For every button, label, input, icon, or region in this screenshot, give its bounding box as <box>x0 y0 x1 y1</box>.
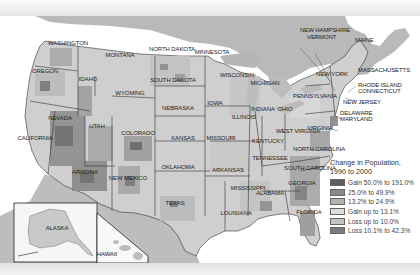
state-label: MISSISSIPPI <box>231 185 266 191</box>
legend: Change in Population, 1990 to 2000 Gain … <box>330 158 420 236</box>
legend-item: Gain up to 13.1% <box>330 207 420 217</box>
state-label: ILLINOIS <box>232 114 256 120</box>
state-label: MONTANA <box>106 52 135 58</box>
legend-swatch <box>330 189 345 196</box>
state-label: NEBRASKA <box>162 105 194 111</box>
state-label: INDIANA <box>251 106 275 112</box>
state-label: TEXAS <box>165 200 184 206</box>
bottom-margin <box>0 263 420 275</box>
legend-title-line2: 1990 to 2000 <box>330 167 420 176</box>
state-label: MINNESOTA <box>195 49 229 55</box>
state-label: NEVADA <box>48 115 72 121</box>
state-label: MICHIGAN <box>250 80 279 86</box>
legend-item: Gain 50.0% to 191.0% <box>330 178 420 188</box>
state-label: VIRGINIA <box>307 125 333 131</box>
state-label: ARIZONA <box>72 169 98 175</box>
state-callout-label: CONNECTICUT <box>358 88 401 94</box>
legend-title-line1: Change in Population, <box>330 158 420 167</box>
legend-item: 25.0% to 49.9% <box>330 188 420 198</box>
state-label: UTAH <box>89 123 105 129</box>
state-callout-label: MAINE <box>355 37 374 43</box>
state-label: NEW YORK <box>316 71 348 77</box>
legend-swatch <box>330 218 345 225</box>
state-label: IOWA <box>207 100 222 106</box>
state-label: LOUISIANA <box>220 210 251 216</box>
legend-label: Loss 10.1% to 42.3% <box>348 227 410 234</box>
legend-label: Gain 50.0% to 191.0% <box>348 179 414 186</box>
legend-swatch <box>330 179 345 186</box>
state-label: SOUTH CAROLINA <box>284 165 336 171</box>
state-callout-label: MASSACHUSETTS <box>358 67 410 73</box>
state-label: SOUTH DAKOTA <box>150 77 196 83</box>
state-label: KANSAS <box>171 135 195 141</box>
legend-label: 13.2% to 24.9% <box>348 198 395 205</box>
state-label: TENNESSEE <box>252 155 287 161</box>
state-label: NORTH CAROLINA <box>293 146 345 152</box>
state-label: GEORGIA <box>288 180 315 186</box>
state-label: WISCONSIN <box>220 72 254 78</box>
state-callout-label: MARYLAND <box>340 116 372 122</box>
state-label: OREGON <box>32 68 58 74</box>
state-callout-label: VERMONT <box>307 34 336 40</box>
top-margin <box>0 0 420 17</box>
state-label: ARKANSAS <box>212 167 244 173</box>
state-label: NORTH DAKOTA <box>149 46 195 52</box>
state-label: NEW MEXICO <box>109 175 147 181</box>
state-label: IDAHO <box>79 76 98 82</box>
legend-swatch <box>330 208 345 215</box>
legend-label: Loss up to 10.0% <box>348 218 399 225</box>
state-label: MISSOURI <box>207 135 236 141</box>
state-label: WASHINGTON <box>48 40 88 46</box>
state-label: PENNSYLVANIA <box>293 93 337 99</box>
legend-item: Loss up to 10.0% <box>330 216 420 226</box>
state-callout-label: NEW HAMPSHIRE <box>300 27 350 33</box>
state-label: ALASKA <box>46 225 69 231</box>
legend-label: 25.0% to 49.9% <box>348 189 395 196</box>
state-label: CALIFORNIA <box>17 135 52 141</box>
legend-label: Gain up to 13.1% <box>348 208 399 215</box>
state-callout-label: NEW JERSEY <box>343 99 381 105</box>
state-label: HAWAII <box>97 251 117 257</box>
legend-item: Loss 10.1% to 42.3% <box>330 226 420 236</box>
state-label: OHIO <box>278 106 293 112</box>
state-label: WYOMING <box>115 90 144 96</box>
state-label: COLORADO <box>121 130 155 136</box>
map-figure: WASHINGTONOREGONIDAHOMONTANAWYOMINGNORTH… <box>0 0 420 275</box>
state-label: FLORIDA <box>296 209 321 215</box>
state-label: OKLAHOMA <box>161 164 194 170</box>
legend-item: 13.2% to 24.9% <box>330 197 420 207</box>
state-label: KENTUCKY <box>252 138 284 144</box>
legend-swatch <box>330 227 345 234</box>
legend-swatch <box>330 198 345 205</box>
